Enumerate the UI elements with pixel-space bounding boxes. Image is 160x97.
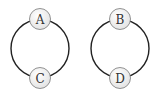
node-b: B: [110, 9, 131, 30]
node-c: C: [30, 68, 51, 89]
node-a-label: A: [35, 13, 45, 27]
graph-right: B D: [91, 9, 149, 89]
node-c-label: C: [35, 72, 44, 86]
diagram-canvas: A C B D: [0, 0, 160, 97]
node-d-label: D: [115, 72, 125, 86]
node-d: D: [110, 68, 131, 89]
node-a: A: [30, 9, 51, 30]
graph-left: A C: [11, 9, 69, 89]
node-b-label: B: [116, 13, 125, 27]
